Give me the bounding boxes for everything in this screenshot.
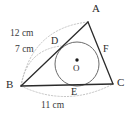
geometry-canvas: [0, 0, 132, 117]
vertex-label-a: A: [92, 3, 100, 14]
incircle-center-label: O: [73, 64, 80, 73]
side-ac: [88, 22, 113, 84]
side-bc: [21, 84, 113, 86]
measure-label-bc: 11 cm: [41, 101, 64, 111]
measure-label-ba: 12 cm: [10, 29, 33, 39]
vertex-label-b: B: [6, 79, 13, 90]
incircle-center-dot: [75, 58, 78, 61]
geometry-figure: A B C D E F O 12 cm 7 cm 11 cm: [0, 0, 132, 117]
tangent-label-d: D: [51, 36, 58, 46]
vertex-label-c: C: [117, 77, 124, 88]
measure-label-bd: 7 cm: [15, 45, 34, 55]
tangent-label-e: E: [71, 87, 77, 97]
tangent-label-f: F: [103, 44, 109, 54]
